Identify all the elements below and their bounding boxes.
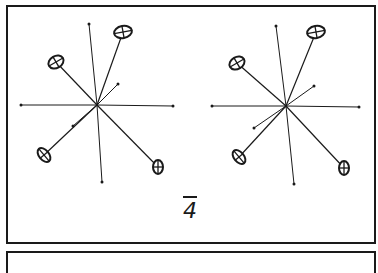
bond-line (276, 26, 286, 106)
bond-line (97, 105, 173, 106)
bond-line (97, 105, 102, 182)
bond-line (89, 24, 97, 105)
central-atom (96, 104, 98, 106)
thermal-ellipsoid-icon (339, 161, 349, 175)
symmetry-label: 4 (183, 200, 197, 222)
atom-dot (117, 83, 120, 86)
atom-dot (88, 23, 91, 26)
bond-line (286, 106, 344, 168)
bond-line (286, 106, 294, 184)
bond-line (97, 32, 123, 105)
thermal-ellipsoid-icon (306, 25, 326, 40)
bond-line (237, 63, 286, 106)
bond-line (44, 105, 97, 155)
atom-dot (313, 85, 316, 88)
atom-dot (358, 106, 361, 109)
atom-dot (253, 127, 256, 130)
bond-line (239, 106, 286, 157)
atom-dot (20, 104, 23, 107)
atom-dot (172, 105, 175, 108)
bond-line (56, 62, 97, 105)
bond-line (286, 106, 359, 107)
atom-dot (275, 25, 278, 28)
atom-dot (211, 105, 214, 108)
bond-line (97, 105, 158, 167)
thermal-ellipsoid-icon (113, 25, 133, 40)
thermal-ellipsoid-icon (153, 160, 163, 174)
central-atom (285, 105, 287, 107)
atom-dot (101, 181, 104, 184)
bond-line (254, 106, 286, 128)
atom-dot (293, 183, 296, 186)
